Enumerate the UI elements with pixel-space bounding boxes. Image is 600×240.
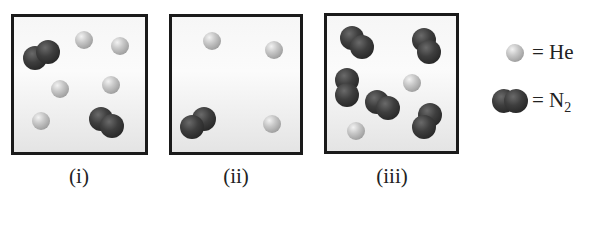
- he-atom-icon: [265, 41, 283, 59]
- he-atom-icon: [347, 122, 365, 140]
- legend-he-label: = He: [532, 40, 574, 65]
- he-atom-icon: [32, 112, 50, 130]
- panel-label-3: (iii): [376, 164, 408, 189]
- he-atom-icon: [203, 32, 221, 50]
- n2-molecule-atom-icon: [100, 114, 124, 138]
- he-atom-icon: [111, 37, 129, 55]
- legend-he-icon: [506, 44, 524, 62]
- n2-molecule-atom-icon: [36, 40, 60, 64]
- legend-n2-atom-right-icon: [504, 89, 528, 113]
- n2-molecule-atom-icon: [350, 35, 374, 59]
- legend-he-symbol: He: [549, 40, 574, 64]
- panel-label-2: (ii): [223, 164, 249, 189]
- n2-molecule-atom-icon: [335, 83, 359, 107]
- n2-molecule-atom-icon: [412, 115, 436, 139]
- he-atom-icon: [263, 115, 281, 133]
- he-atom-icon: [75, 31, 93, 49]
- legend-n2-equals: =: [532, 88, 544, 112]
- n2-molecule-atom-icon: [376, 96, 400, 120]
- legend-he-equals: =: [532, 40, 544, 64]
- he-atom-icon: [403, 74, 421, 92]
- n2-molecule-atom-icon: [180, 115, 204, 139]
- he-atom-icon: [102, 76, 120, 94]
- legend-n2-symbol: N: [549, 88, 564, 112]
- panel-label-1: (i): [69, 164, 89, 189]
- n2-molecule-atom-icon: [417, 40, 441, 64]
- he-atom-icon: [51, 80, 69, 98]
- legend-n2-subscript: 2: [564, 100, 571, 115]
- legend-n2-label: = N2: [532, 88, 571, 116]
